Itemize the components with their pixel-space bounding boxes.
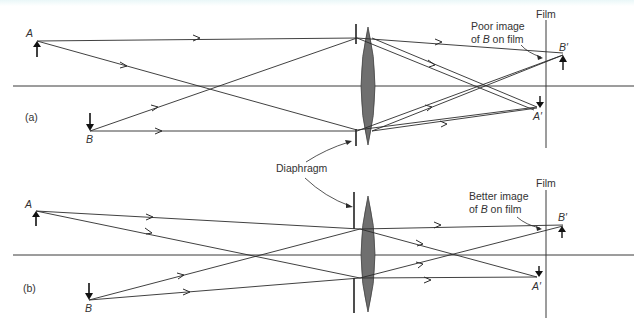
image-b-label: B′ — [559, 41, 569, 53]
ray-a-refracted-2 — [372, 108, 537, 131]
leader-arrowhead-icon — [345, 140, 352, 145]
object-a-label: A — [25, 27, 33, 39]
panel-a: A B (a) Film B′ A′ Poor image of B on fi… — [13, 8, 634, 148]
panel-b: A B (b) Film B′ A′ Better image of B on … — [13, 177, 634, 318]
annotation-line-2: of B on film — [471, 33, 524, 45]
annotation-arrowhead-icon — [537, 55, 543, 60]
ray-a-refracted-1 — [372, 38, 537, 107]
object-b-label: B — [86, 133, 93, 145]
optics-diagram: A B (a) Film B′ A′ Poor image of B on fi… — [0, 0, 634, 330]
direction-arrow-icon — [416, 240, 423, 246]
image-a-label: A′ — [531, 280, 542, 292]
diaphragm-label: Diaphragm — [276, 162, 328, 174]
film-label: Film — [536, 177, 556, 189]
direction-arrow-icon — [145, 228, 152, 234]
film-label: Film — [536, 8, 556, 20]
panel-label: (a) — [25, 111, 38, 123]
image-b-label: B′ — [558, 211, 568, 223]
annotation-line-1: Poor image — [471, 20, 525, 32]
object-b-label: B — [85, 302, 92, 314]
direction-arrow-icon — [193, 35, 200, 41]
diaphragm-leader-bottom — [305, 178, 350, 206]
ray-a-cross — [36, 211, 537, 278]
annotation-line-2: of B on film — [469, 203, 522, 215]
object-a-label: A — [24, 198, 32, 210]
lens — [361, 196, 375, 312]
annotation-line-1: Better image — [469, 190, 529, 202]
annotation-arrowhead-icon — [536, 226, 542, 231]
image-a-arrowhead-icon — [536, 102, 544, 108]
direction-arrow-icon — [416, 262, 423, 268]
panel-label: (b) — [23, 282, 36, 294]
image-a-label: A′ — [532, 110, 543, 122]
diaphragm-callout: Diaphragm — [276, 140, 353, 208]
leader-arrowhead-icon — [346, 203, 353, 208]
direction-arrow-icon — [151, 105, 158, 111]
ray-a-refracted — [360, 229, 537, 277]
direction-arrow-icon — [440, 121, 447, 127]
image-a-arrowhead-icon — [535, 271, 543, 277]
diaphragm-leader-top — [306, 142, 349, 162]
